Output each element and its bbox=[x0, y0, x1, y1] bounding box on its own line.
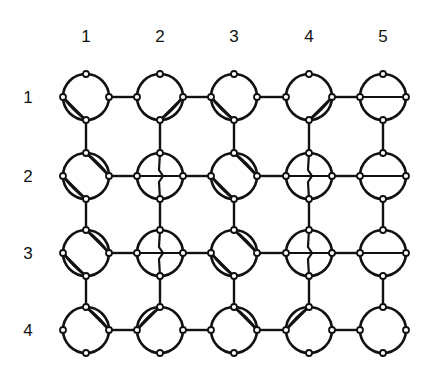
node-top bbox=[380, 71, 386, 77]
row-label-1: 1 bbox=[23, 88, 32, 107]
column-label-2: 2 bbox=[155, 27, 164, 46]
node-bottom bbox=[157, 350, 163, 356]
node-left bbox=[60, 327, 66, 333]
node-top bbox=[83, 227, 89, 233]
node-right bbox=[254, 327, 260, 333]
node-left bbox=[60, 94, 66, 100]
ring bbox=[286, 74, 332, 120]
node-bottom bbox=[380, 196, 386, 202]
node-bottom bbox=[231, 117, 237, 123]
node-bottom bbox=[83, 273, 89, 279]
node-top bbox=[231, 150, 237, 156]
ring-cell-1-3 bbox=[208, 71, 260, 123]
ring-cell-2-1 bbox=[60, 150, 112, 202]
node-right bbox=[106, 327, 112, 333]
node-bottom bbox=[157, 117, 163, 123]
grid-diagram: 1 2 3 4 5 1 2 3 4 bbox=[0, 0, 436, 379]
ring-cell-3-5 bbox=[357, 227, 409, 279]
row-labels: 1 2 3 4 bbox=[23, 88, 32, 340]
node-top bbox=[231, 304, 237, 310]
node-left bbox=[283, 250, 289, 256]
node-top bbox=[231, 71, 237, 77]
ring-cell-4-2 bbox=[134, 304, 186, 356]
ring-cell-1-1 bbox=[60, 71, 112, 123]
ring bbox=[63, 74, 109, 120]
ring-cell-1-5 bbox=[357, 71, 409, 123]
node-left bbox=[357, 94, 363, 100]
column-label-4: 4 bbox=[304, 27, 313, 46]
node-right bbox=[106, 94, 112, 100]
node-top bbox=[83, 150, 89, 156]
node-bottom bbox=[306, 350, 312, 356]
ring-cell-2-2 bbox=[134, 150, 186, 202]
ring-cell-2-5 bbox=[357, 150, 409, 202]
ring-cell-3-4 bbox=[283, 227, 335, 279]
ring bbox=[63, 230, 109, 276]
node-bottom bbox=[83, 117, 89, 123]
node-right bbox=[403, 94, 409, 100]
ring bbox=[286, 307, 332, 353]
node-bottom bbox=[231, 350, 237, 356]
column-labels: 1 2 3 4 5 bbox=[81, 27, 387, 46]
node-left bbox=[283, 94, 289, 100]
node-left bbox=[283, 327, 289, 333]
node-left bbox=[357, 173, 363, 179]
node-left bbox=[60, 250, 66, 256]
node-right bbox=[180, 250, 186, 256]
node-left bbox=[208, 250, 214, 256]
node-right bbox=[403, 327, 409, 333]
node-bottom bbox=[157, 196, 163, 202]
node-top bbox=[306, 227, 312, 233]
ring-cell-3-2 bbox=[134, 227, 186, 279]
node-top bbox=[157, 227, 163, 233]
node-right bbox=[254, 173, 260, 179]
node-left bbox=[357, 327, 363, 333]
node-top bbox=[83, 304, 89, 310]
node-bottom bbox=[380, 117, 386, 123]
node-left bbox=[134, 250, 140, 256]
node-left bbox=[208, 327, 214, 333]
node-right bbox=[329, 327, 335, 333]
row-label-3: 3 bbox=[23, 244, 32, 263]
node-top bbox=[157, 71, 163, 77]
ring bbox=[211, 74, 257, 120]
node-left bbox=[208, 94, 214, 100]
ring-cell-4-4 bbox=[283, 304, 335, 356]
column-label-3: 3 bbox=[229, 27, 238, 46]
node-left bbox=[134, 327, 140, 333]
node-left bbox=[357, 250, 363, 256]
ring bbox=[63, 153, 109, 199]
node-right bbox=[106, 250, 112, 256]
ring-cell-3-3 bbox=[208, 227, 260, 279]
node-bottom bbox=[83, 350, 89, 356]
node-right bbox=[329, 173, 335, 179]
node-right bbox=[106, 173, 112, 179]
ring bbox=[211, 153, 257, 199]
column-label-5: 5 bbox=[378, 27, 387, 46]
node-bottom bbox=[306, 196, 312, 202]
grid-edges bbox=[86, 97, 383, 330]
node-bottom bbox=[231, 273, 237, 279]
ring-cell-3-1 bbox=[60, 227, 112, 279]
node-top bbox=[157, 304, 163, 310]
ring bbox=[211, 307, 257, 353]
node-right bbox=[180, 94, 186, 100]
node-right bbox=[329, 250, 335, 256]
row-label-2: 2 bbox=[23, 167, 32, 186]
node-right bbox=[180, 173, 186, 179]
node-right bbox=[254, 250, 260, 256]
node-top bbox=[380, 150, 386, 156]
node-right bbox=[329, 94, 335, 100]
node-bottom bbox=[231, 196, 237, 202]
ring bbox=[360, 307, 406, 353]
node-bottom bbox=[306, 117, 312, 123]
node-left bbox=[208, 173, 214, 179]
ring bbox=[137, 307, 183, 353]
node-left bbox=[283, 173, 289, 179]
column-label-1: 1 bbox=[81, 27, 90, 46]
node-bottom bbox=[83, 196, 89, 202]
node-top bbox=[306, 71, 312, 77]
row-label-4: 4 bbox=[23, 321, 32, 340]
node-right bbox=[403, 250, 409, 256]
node-right bbox=[254, 94, 260, 100]
